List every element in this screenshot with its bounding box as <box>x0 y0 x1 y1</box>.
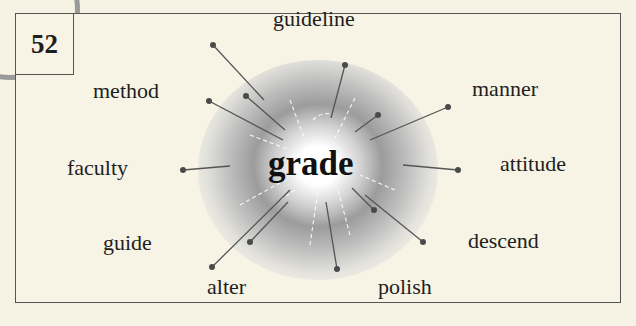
word-guideline: guideline <box>273 8 355 30</box>
word-method: method <box>93 80 159 102</box>
center-word: grade <box>268 146 354 181</box>
word-polish: polish <box>378 276 432 298</box>
word-attitude: attitude <box>500 153 566 175</box>
word-guide: guide <box>103 232 152 254</box>
word-manner: manner <box>472 78 538 100</box>
word-alter: alter <box>207 276 246 298</box>
word-faculty: faculty <box>67 157 128 179</box>
card-number: 52 <box>15 13 74 75</box>
word-descend: descend <box>468 230 539 252</box>
